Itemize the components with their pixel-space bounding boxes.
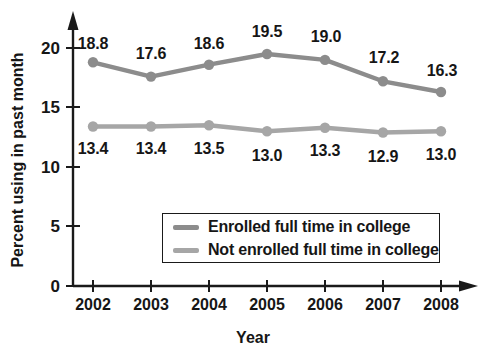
data-point-not-enrolled-2003 [146, 121, 156, 131]
data-point-not-enrolled-2008 [436, 126, 446, 136]
data-label-enrolled-2005: 19.5 [244, 24, 290, 40]
data-label-not-enrolled-2007: 12.9 [360, 149, 406, 165]
x-tick-label-2006: 2006 [298, 297, 352, 313]
data-label-enrolled-2003: 17.6 [128, 46, 174, 62]
data-point-enrolled-2008 [436, 87, 446, 97]
y-tick-label-10: 10 [26, 159, 60, 176]
data-point-not-enrolled-2002 [88, 121, 98, 131]
data-point-enrolled-2002 [88, 57, 98, 67]
legend-label-not-enrolled: Not enrolled full time in college [208, 241, 439, 259]
x-axis [73, 281, 478, 292]
legend-item-not-enrolled: Not enrolled full time in college [173, 239, 439, 261]
data-label-enrolled-2002: 18.8 [70, 36, 116, 52]
data-label-not-enrolled-2004: 13.5 [186, 141, 232, 157]
legend-item-enrolled: Enrolled full time in college [173, 216, 410, 238]
x-axis-title: Year [193, 330, 313, 346]
data-point-not-enrolled-2007 [378, 127, 388, 137]
data-label-not-enrolled-2008: 13.0 [418, 147, 464, 163]
data-point-enrolled-2005 [262, 49, 272, 59]
x-tick-label-2005: 2005 [240, 297, 294, 313]
data-point-enrolled-2006 [320, 55, 330, 65]
data-point-not-enrolled-2005 [262, 126, 272, 136]
line-chart: 20 15 10 5 0 2002 2003 2004 2005 2006 20… [0, 0, 487, 354]
legend-label-enrolled: Enrolled full time in college [208, 218, 410, 236]
x-tick-label-2003: 2003 [124, 297, 178, 313]
data-label-not-enrolled-2005: 13.0 [244, 148, 290, 164]
data-point-not-enrolled-2006 [320, 123, 330, 133]
y-tick-label-20: 20 [26, 40, 60, 57]
chart-legend: Enrolled full time in college Not enroll… [162, 213, 440, 263]
y-tick-label-0: 0 [26, 278, 60, 295]
y-tick-label-15: 15 [26, 99, 60, 116]
x-tick-label-2008: 2008 [414, 297, 468, 313]
data-label-enrolled-2004: 18.6 [186, 36, 232, 52]
legend-color-swatch-not-enrolled [173, 248, 199, 253]
data-label-not-enrolled-2006: 13.3 [302, 143, 348, 159]
x-tick-label-2004: 2004 [182, 297, 236, 313]
data-point-enrolled-2003 [146, 71, 156, 81]
x-tick-marks [93, 280, 441, 292]
data-label-enrolled-2008: 16.3 [419, 63, 465, 79]
data-label-enrolled-2007: 17.2 [361, 50, 407, 66]
data-label-enrolled-2006: 19.0 [303, 29, 349, 45]
data-point-not-enrolled-2004 [204, 120, 214, 130]
data-label-not-enrolled-2002: 13.4 [70, 141, 116, 157]
data-point-enrolled-2004 [204, 59, 214, 69]
legend-color-swatch-enrolled [173, 225, 199, 230]
x-tick-label-2007: 2007 [356, 297, 410, 313]
data-label-not-enrolled-2003: 13.4 [128, 141, 174, 157]
y-tick-marks [66, 48, 80, 286]
y-tick-label-5: 5 [26, 218, 60, 235]
series-not-enrolled-full-time [88, 120, 446, 138]
y-axis-title: Percent using in past month [10, 35, 26, 285]
x-tick-label-2002: 2002 [66, 297, 120, 313]
data-point-enrolled-2007 [378, 76, 388, 86]
